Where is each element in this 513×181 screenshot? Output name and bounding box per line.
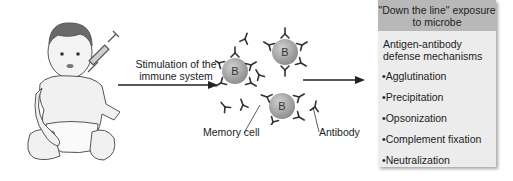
mechanism-list: •Agglutination •Precipitation •Opsonizat… <box>378 70 496 175</box>
svg-text:B: B <box>231 65 238 77</box>
svg-text:B: B <box>281 46 288 58</box>
box-subtitle: Antigen-antibody defense mechanisms <box>378 31 496 62</box>
list-item: •Agglutination <box>378 70 496 91</box>
arrow-right-icon <box>118 80 218 90</box>
list-item: •Complement fixation <box>378 133 496 154</box>
arrow-right-icon <box>303 75 365 85</box>
antibody-label: Antibody <box>319 126 360 138</box>
box-header: "Down the line" exposure to microbe <box>378 0 496 31</box>
memory-cell-label: Memory cell <box>203 126 260 138</box>
baby-illustration <box>10 14 120 164</box>
list-item: •Neutralization <box>378 154 496 175</box>
defense-mechanisms-box: "Down the line" exposure to microbe Anti… <box>378 0 496 167</box>
list-item: •Precipitation <box>378 91 496 112</box>
list-item: •Opsonization <box>378 112 496 133</box>
